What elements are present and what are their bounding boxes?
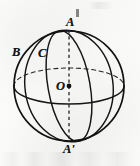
sphere-figure: A A' B C O <box>0 0 140 166</box>
label-point-b: B <box>12 46 20 59</box>
label-center-o: O <box>56 80 65 93</box>
label-point-c: C <box>38 47 46 60</box>
label-north-pole: A <box>66 16 74 29</box>
label-south-pole: A' <box>63 143 75 156</box>
center-point-dot <box>67 84 72 89</box>
equator-back-arc <box>14 68 124 86</box>
